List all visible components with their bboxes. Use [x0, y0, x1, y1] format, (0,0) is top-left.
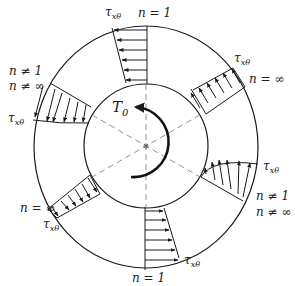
n-label-bottom: n = 1: [132, 271, 165, 285]
tau-label-upper-right: τxθ: [234, 51, 250, 67]
torque-label: T0: [112, 98, 129, 118]
n-label-top: n = 1: [138, 6, 171, 20]
stress-profile-top: [112, 26, 147, 84]
tau-label-upper-left: τxθ: [8, 111, 24, 127]
stress-profile-upper-right: [191, 68, 245, 114]
n-label-upper-right: n = ∞: [249, 72, 284, 86]
shear-stress-diagram: T0 τxθ n = 1 τxθ n = ∞ τxθ n: [0, 0, 295, 286]
n-label-lower-left: n = ∞: [20, 201, 55, 215]
tau-label-lower-right: τxθ: [263, 159, 279, 175]
stress-profile-bottom: [145, 207, 179, 270]
n-label-lower-right-2: n ≠ ∞: [256, 205, 291, 219]
n-label-upper-left-1: n ≠ 1: [9, 64, 42, 78]
n-label-lower-right-1: n ≠ 1: [256, 189, 289, 203]
stress-profile-lower-left: [48, 175, 100, 218]
torque-arc-arrow: [131, 107, 169, 177]
n-label-upper-left-2: n ≠ ∞: [9, 79, 44, 93]
tau-label-top: τxθ: [105, 5, 121, 21]
center-point-icon: [143, 143, 149, 149]
tau-label-bottom: τxθ: [184, 253, 200, 269]
